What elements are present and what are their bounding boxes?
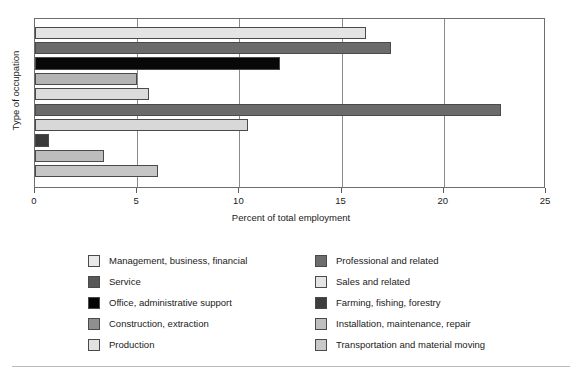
bar [35,73,137,85]
bar [35,104,501,116]
legend-swatch-icon [88,297,100,309]
legend-column-left: Management, business, financialServiceOf… [88,250,303,355]
bar-row [35,117,544,132]
x-axis-title: Percent of total employment [0,212,582,223]
bar [35,42,391,54]
legend-item: Production [88,334,303,355]
legend-label: Management, business, financial [109,255,247,266]
bar-row [35,148,544,163]
bar [35,134,49,146]
legend-swatch-icon [315,318,327,330]
bar [35,165,158,177]
bar-row [35,25,544,40]
legend-label: Office, administrative support [109,297,232,308]
bar-series [35,19,544,187]
bar-chart-figure: Type of occupation 0510152025 Percent of… [0,0,582,377]
legend-item: Construction, extraction [88,313,303,334]
x-tick-mark [136,188,137,193]
x-tick-label: 20 [428,195,458,206]
bar [35,57,280,69]
x-tick-mark [34,188,35,193]
chart-legend: Management, business, financialServiceOf… [88,250,508,355]
legend-swatch-icon [315,255,327,267]
bar [35,88,149,100]
legend-label: Sales and related [336,276,410,287]
legend-item: Installation, maintenance, repair [315,313,530,334]
x-tick-mark [545,188,546,193]
legend-label: Production [109,339,154,350]
footer-divider [12,366,570,367]
legend-item: Service [88,271,303,292]
legend-label: Construction, extraction [109,318,209,329]
x-tick-mark [341,188,342,193]
x-tick-mark [443,188,444,193]
bar-row [35,133,544,148]
legend-swatch-icon [88,318,100,330]
legend-label: Installation, maintenance, repair [336,318,471,329]
x-tick-label: 10 [223,195,253,206]
legend-swatch-icon [315,297,327,309]
bar-row [35,71,544,86]
legend-item: Office, administrative support [88,292,303,313]
legend-swatch-icon [315,339,327,351]
legend-item: Management, business, financial [88,250,303,271]
x-tick-label: 25 [530,195,560,206]
x-tick-label: 5 [121,195,151,206]
legend-item: Sales and related [315,271,530,292]
legend-column-right: Professional and relatedSales and relate… [315,250,530,355]
legend-swatch-icon [88,276,100,288]
bar-row [35,56,544,71]
legend-swatch-icon [88,339,100,351]
legend-swatch-icon [315,276,327,288]
x-tick-mark [238,188,239,193]
bar-row [35,87,544,102]
bar-row [35,164,544,179]
legend-label: Transportation and material moving [336,339,485,350]
legend-label: Service [109,276,141,287]
legend-swatch-icon [88,255,100,267]
bar [35,150,104,162]
legend-label: Professional and related [336,255,438,266]
legend-item: Farming, fishing, forestry [315,292,530,313]
legend-label: Farming, fishing, forestry [336,297,441,308]
legend-item: Professional and related [315,250,530,271]
plot-area [34,18,545,188]
bar [35,27,366,39]
x-tick-label: 0 [19,195,49,206]
y-axis-title: Type of occupation [10,26,21,156]
bar [35,119,248,131]
legend-item: Transportation and material moving [315,334,530,355]
bar-row [35,102,544,117]
x-tick-label: 15 [326,195,356,206]
bar-row [35,40,544,55]
